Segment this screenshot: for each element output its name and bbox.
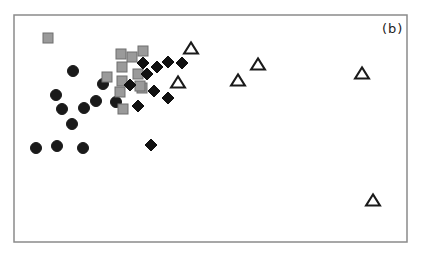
square-marker	[43, 33, 53, 43]
square-marker	[116, 49, 126, 59]
circle-marker	[67, 119, 78, 130]
circle-marker	[51, 90, 62, 101]
scatter-plot	[0, 0, 422, 253]
square-marker	[118, 104, 128, 114]
circle-marker	[68, 66, 79, 77]
circle-marker	[57, 104, 68, 115]
square-marker	[138, 46, 148, 56]
square-marker	[127, 52, 137, 62]
circle-marker	[78, 143, 89, 154]
square-marker	[115, 87, 125, 97]
circle-marker	[79, 103, 90, 114]
panel-label: (b)	[382, 21, 403, 36]
square-marker	[117, 62, 127, 72]
circle-marker	[52, 141, 63, 152]
circle-marker	[31, 143, 42, 154]
circle-marker	[91, 96, 102, 107]
square-marker	[102, 72, 112, 82]
square-marker	[135, 81, 145, 91]
